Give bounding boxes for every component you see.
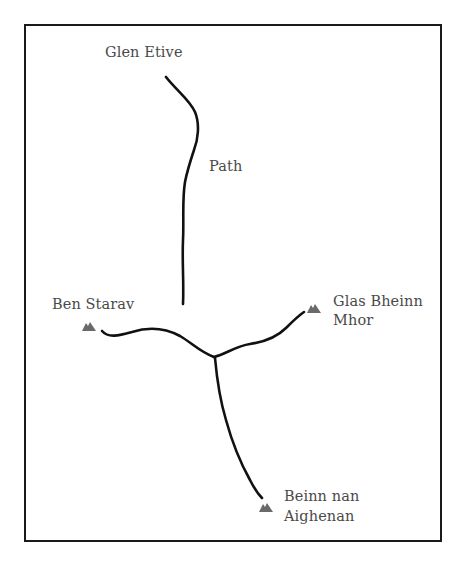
- label-glas-bheinn-mhor-line2: Mhor: [333, 311, 373, 330]
- mountain-icon: [82, 321, 96, 331]
- label-glas-bheinn-mhor-line1: Glas Bheinn: [333, 292, 423, 311]
- mountain-icon: [307, 303, 321, 313]
- label-path: Path: [209, 157, 242, 176]
- ridge-line-west: [102, 329, 214, 357]
- ridge-line-east: [214, 312, 304, 357]
- label-beinn-nan-aighenan-line1: Beinn nan: [284, 487, 359, 506]
- label-glen-etive: Glen Etive: [105, 43, 183, 62]
- path-line: [166, 77, 198, 304]
- label-ben-starav: Ben Starav: [52, 295, 134, 314]
- label-beinn-nan-aighenan-line2: Aighenan: [284, 507, 354, 526]
- mountain-icon: [259, 502, 273, 512]
- ridge-line-south: [215, 358, 262, 498]
- route-lines: [0, 0, 464, 568]
